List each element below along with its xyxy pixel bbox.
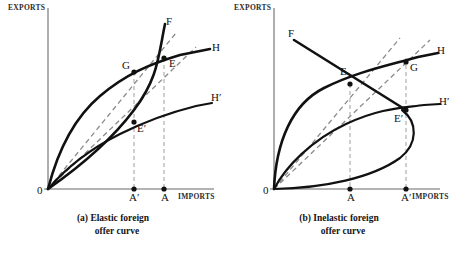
point-label-e-prime: E′ bbox=[394, 113, 403, 124]
panel-b-caption-line1: Inelastic foreign bbox=[313, 213, 379, 223]
panel-inelastic-foreign-offer-curve: EXPORTS IMPORTS 0 F H H′ G E E′ A A′ (b)… bbox=[226, 0, 452, 254]
x-axis-label: IMPORTS bbox=[178, 192, 215, 201]
panel-b-caption-line2: offer curve bbox=[226, 225, 452, 238]
curve-label-f: F bbox=[288, 28, 294, 39]
point-label-g: G bbox=[122, 60, 130, 71]
home-offer-curve-f bbox=[48, 24, 165, 189]
point-e-prime bbox=[131, 119, 136, 124]
point-e bbox=[161, 55, 166, 60]
panel-a-plot bbox=[0, 0, 226, 210]
point-g bbox=[131, 69, 136, 74]
offer-curve-figure: EXPORTS IMPORTS 0 F H H′ G E E′ A′ A (a)… bbox=[0, 0, 453, 254]
panel-a-caption-line1: Elastic foreign bbox=[90, 213, 149, 223]
point-g bbox=[403, 59, 408, 64]
point-label-e: E bbox=[340, 66, 347, 77]
panel-b-caption-marker: (b) bbox=[299, 213, 311, 223]
panel-a-caption-line2: offer curve bbox=[0, 225, 226, 238]
ray-to-e bbox=[274, 38, 400, 189]
curve-label-h: H bbox=[437, 45, 445, 56]
curve-label-h: H bbox=[212, 42, 220, 53]
point-label-g: G bbox=[410, 62, 418, 73]
x-axis-label: IMPORTS bbox=[412, 192, 449, 201]
origin-label: 0 bbox=[37, 185, 43, 196]
point-e bbox=[347, 81, 352, 86]
curve-label-h-prime: H′ bbox=[211, 92, 221, 103]
foreign-offer-curve-h-prime bbox=[274, 104, 440, 189]
curve-label-h-prime: H′ bbox=[439, 96, 449, 107]
foreign-offer-curve-h bbox=[274, 53, 438, 189]
x-tick-label-a: A bbox=[347, 192, 355, 203]
x-tick-label-a-prime: A′ bbox=[129, 192, 139, 203]
y-axis-label: EXPORTS bbox=[234, 3, 271, 12]
panel-b-plot bbox=[226, 0, 452, 210]
panel-a-caption: (a) Elastic foreign offer curve bbox=[0, 212, 226, 238]
x-tick-label-a-prime: A′ bbox=[401, 192, 411, 203]
panel-elastic-foreign-offer-curve: EXPORTS IMPORTS 0 F H H′ G E E′ A′ A (a)… bbox=[0, 0, 226, 254]
curve-label-f: F bbox=[166, 16, 172, 27]
origin-label: 0 bbox=[263, 185, 269, 196]
panel-b-caption: (b) Inelastic foreign offer curve bbox=[226, 212, 452, 238]
point-e-prime bbox=[403, 107, 408, 112]
point-label-e-prime: E′ bbox=[137, 123, 146, 134]
panel-a-caption-marker: (a) bbox=[77, 213, 88, 223]
y-axis-label: EXPORTS bbox=[8, 3, 45, 12]
point-label-e: E bbox=[169, 58, 176, 69]
ray-to-g bbox=[48, 33, 176, 189]
x-tick-label-a: A bbox=[161, 192, 169, 203]
